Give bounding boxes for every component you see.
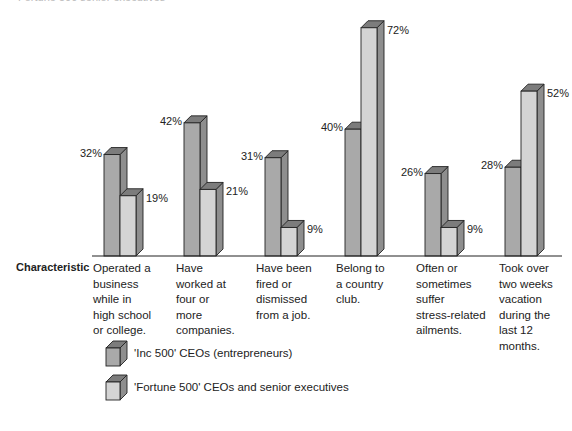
legend-swatch-inc500 xyxy=(106,341,127,366)
value-label: 42% xyxy=(160,115,182,127)
characteristic-label: Characteristic xyxy=(16,261,89,273)
bar-fortune500-2 xyxy=(281,220,304,256)
bar-chart: 32%19%42%21%31%9%40%72%26%9%28%52% xyxy=(0,0,572,431)
bar-fortune500-5 xyxy=(521,84,544,256)
value-label: 72% xyxy=(387,24,409,36)
legend-swatch-fortune500 xyxy=(106,375,127,400)
value-label: 52% xyxy=(547,87,569,99)
category-label: Took overtwo weeksvacationduring thelast… xyxy=(499,261,572,354)
bar-fortune500-3 xyxy=(361,21,384,256)
value-label: 9% xyxy=(307,223,323,235)
legend-cubes xyxy=(106,341,127,400)
value-label: 26% xyxy=(401,166,423,178)
value-label: 21% xyxy=(226,185,248,197)
legend-item-inc500: 'Inc 500' CEOs (entrepreneurs) xyxy=(134,347,292,359)
value-label: 40% xyxy=(321,121,343,133)
bars-group: 32%19%42%21%31%9%40%72%26%9%28%52% xyxy=(80,21,569,256)
category-label: Belong toa countryclub. xyxy=(336,261,414,308)
category-label: Have beenfired ordismissedfrom a job. xyxy=(256,261,334,323)
value-label: 31% xyxy=(241,150,263,162)
value-label: 9% xyxy=(467,223,483,235)
bar-fortune500-4 xyxy=(441,220,464,256)
category-label: Haveworked atfour ormorecompanies. xyxy=(176,261,254,339)
value-label: 28% xyxy=(481,159,503,171)
legend-item-fortune500: 'Fortune 500' CEOs and senior executives xyxy=(134,381,349,393)
bar-fortune500-0 xyxy=(120,189,143,256)
bar-fortune500-1 xyxy=(200,182,223,256)
category-label: Operated abusinesswhile inhigh schoolor … xyxy=(93,261,171,339)
category-label: Often orsometimessufferstress-relatedail… xyxy=(416,261,494,339)
value-label: 32% xyxy=(80,147,102,159)
value-label: 19% xyxy=(146,192,168,204)
